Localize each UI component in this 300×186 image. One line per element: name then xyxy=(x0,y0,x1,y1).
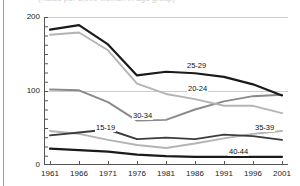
x-axis-tick-label: 1991 xyxy=(209,170,239,178)
series-label-40-44: 40-44 xyxy=(228,148,249,156)
plot-area xyxy=(44,17,288,165)
x-axis-tick-label: 1961 xyxy=(35,170,65,178)
series-label-20-24: 20-24 xyxy=(187,85,208,93)
series-line-20-24 xyxy=(50,33,282,114)
series-line-35-39 xyxy=(50,131,282,148)
series-label-30-34: 30-34 xyxy=(132,112,153,120)
x-axis-tick-label: 1996 xyxy=(238,170,268,178)
y-axis-tick-label: 0 xyxy=(12,161,40,169)
x-axis-tick-label: 2001 xyxy=(267,170,297,178)
chart-title: (Rates per 1,000 women in age group) xyxy=(38,0,288,3)
y-axis-tick-label: 200 xyxy=(12,13,40,21)
series-label-35-39: 35-39 xyxy=(254,124,275,132)
gridlines xyxy=(44,18,288,92)
y-axis-tick-label: 100 xyxy=(12,87,40,95)
x-axis-tick-label: 1976 xyxy=(122,170,152,178)
x-axis-tick-label: 1966 xyxy=(64,170,94,178)
page-left-rule xyxy=(3,0,4,186)
x-axis-tick-label: 1971 xyxy=(93,170,123,178)
series-label-25-29: 25-29 xyxy=(186,62,207,70)
chart-figure: (Rates per 1,000 women in age group) 200… xyxy=(0,0,300,186)
x-axis-tick-label: 1981 xyxy=(151,170,181,178)
x-axis-tick-label: 1986 xyxy=(180,170,210,178)
series-label-15-19: 15-19 xyxy=(95,124,116,132)
line-chart-svg xyxy=(44,17,288,165)
